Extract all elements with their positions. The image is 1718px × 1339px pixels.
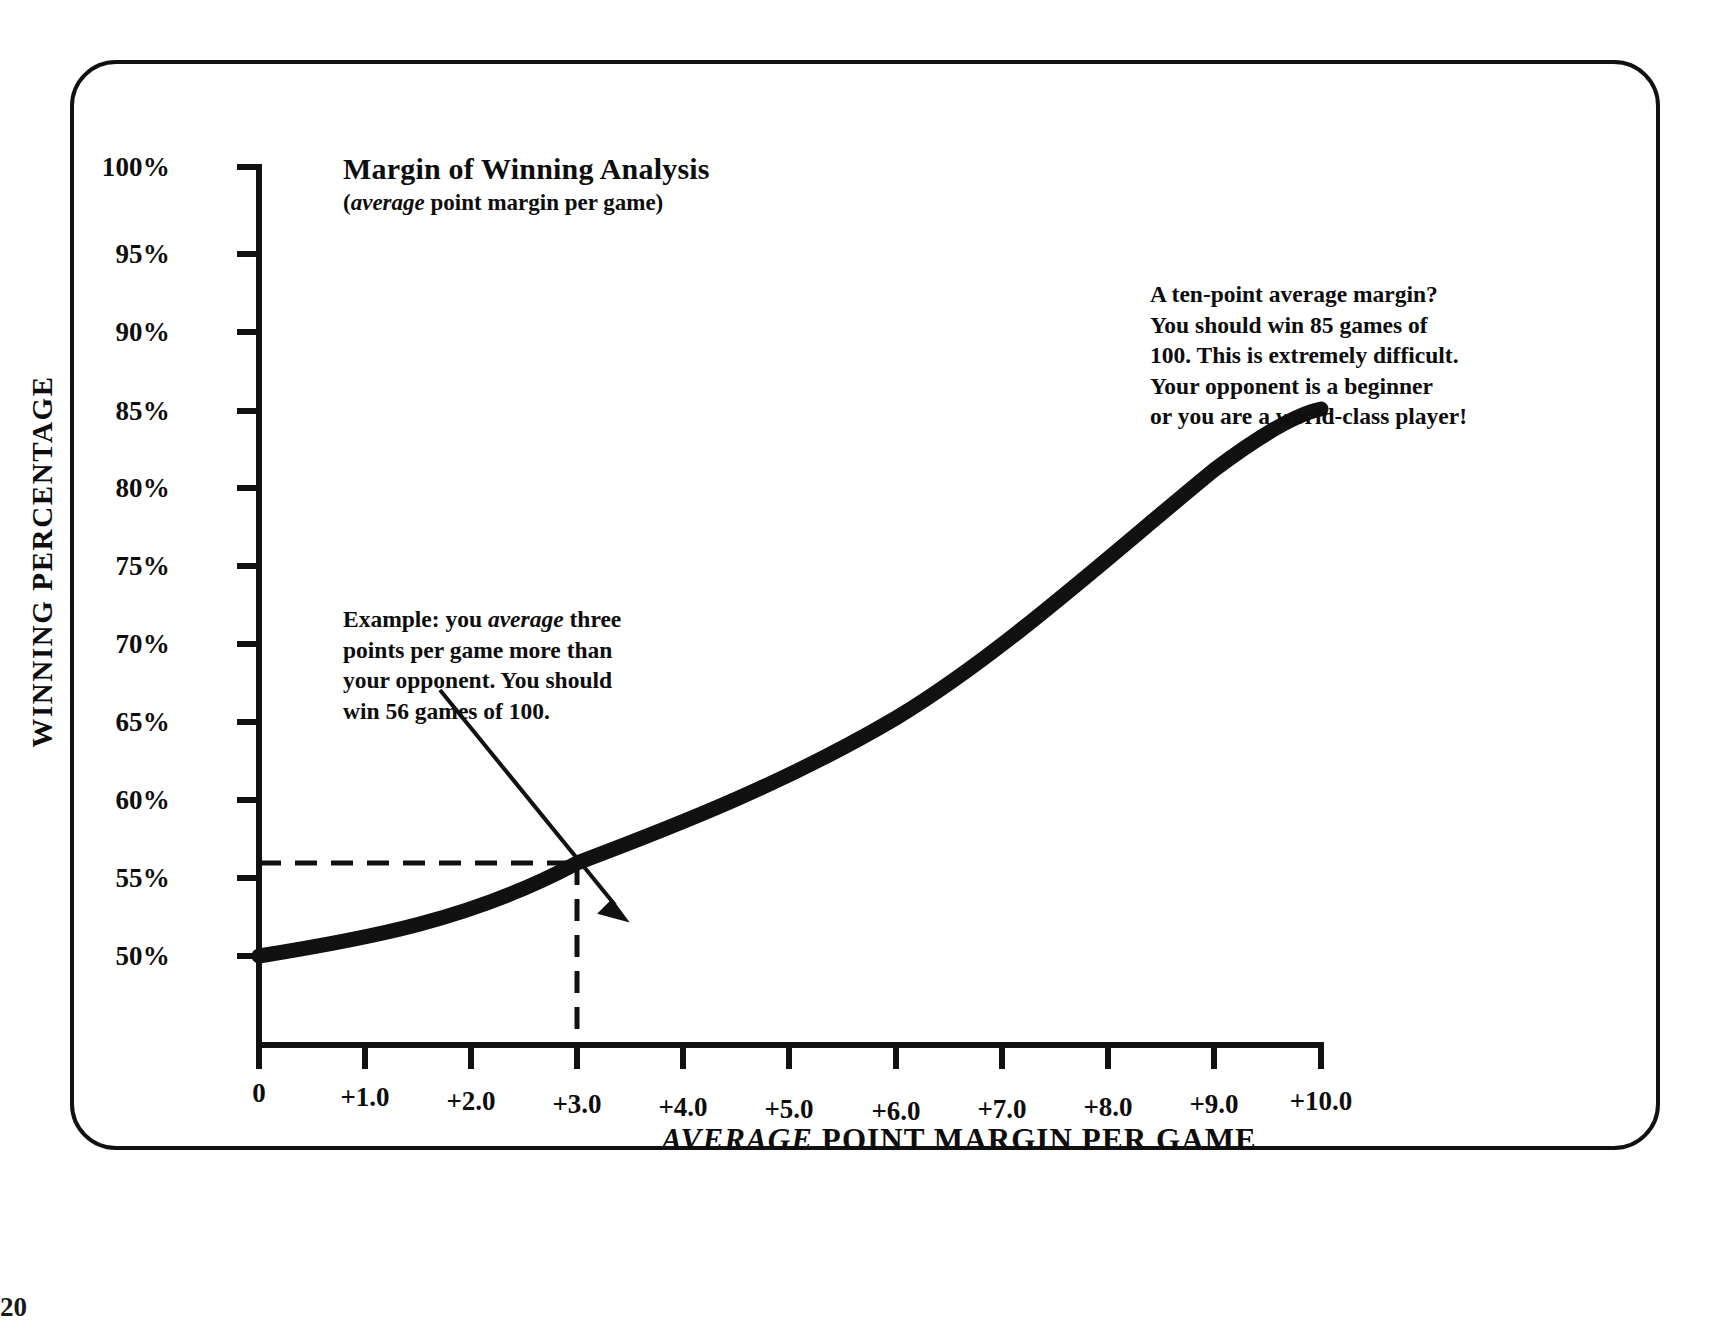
x-axis-title-italic: AVERAGE bbox=[661, 1122, 813, 1157]
example-callout-line-1: Example: you average three bbox=[343, 604, 611, 635]
example-callout: Example: you average threepoints per gam… bbox=[343, 604, 611, 726]
x-tick-label-3: +3.0 bbox=[517, 1089, 637, 1120]
x-tick-label-8: +8.0 bbox=[1048, 1092, 1168, 1123]
x-axis-title-rest: POINT MARGIN PER GAME bbox=[813, 1122, 1257, 1157]
example-callout-line-2: points per game more than bbox=[343, 635, 611, 666]
y-tick-label-55: 55% bbox=[60, 863, 170, 894]
chart-subtitle-rest: point margin per game) bbox=[425, 190, 664, 215]
ten-point-callout-line-5: or you are a world-class player! bbox=[1150, 401, 1434, 432]
chart-title: Margin of Winning Analysis bbox=[343, 152, 903, 186]
page-number: 20 bbox=[0, 1292, 27, 1323]
y-tick-label-65: 65% bbox=[60, 707, 170, 738]
example-callout-line-4: win 56 games of 100. bbox=[343, 696, 611, 727]
chart-subtitle: (average point margin per game) bbox=[343, 190, 903, 216]
ten-point-callout: A ten-point average margin?You should wi… bbox=[1150, 279, 1434, 432]
y-tick-label-100: 100% bbox=[60, 152, 170, 183]
chart-subtitle-italic: average bbox=[351, 190, 425, 215]
x-tick-label-2: +2.0 bbox=[411, 1086, 531, 1117]
y-tick-label-50: 50% bbox=[60, 941, 170, 972]
x-tick-label-5: +5.0 bbox=[729, 1094, 849, 1125]
y-axis-title: WINNING PERCENTAGE bbox=[26, 352, 59, 772]
example-callout-italic: average bbox=[488, 606, 564, 632]
chart-title-block: Margin of Winning Analysis (average poin… bbox=[343, 152, 903, 216]
x-tick-label-0: 0 bbox=[199, 1078, 319, 1109]
x-tick-label-9: +9.0 bbox=[1154, 1089, 1274, 1120]
example-callout-line-3: your opponent. You should bbox=[343, 665, 611, 696]
y-tick-label-75: 75% bbox=[60, 551, 170, 582]
x-tick-label-7: +7.0 bbox=[942, 1094, 1062, 1125]
ten-point-callout-line-4: Your opponent is a beginner bbox=[1150, 371, 1434, 402]
ten-point-callout-line-3: 100. This is extremely difficult. bbox=[1150, 340, 1434, 371]
y-tick-label-60: 60% bbox=[60, 785, 170, 816]
ten-point-callout-line-2: You should win 85 games of bbox=[1150, 310, 1434, 341]
ten-point-callout-line-1: A ten-point average margin? bbox=[1150, 279, 1434, 310]
x-tick-label-1: +1.0 bbox=[305, 1082, 425, 1113]
y-tick-label-90: 90% bbox=[60, 317, 170, 348]
x-axis-title: AVERAGE POINT MARGIN PER GAME bbox=[459, 1122, 1459, 1158]
y-tick-label-70: 70% bbox=[60, 629, 170, 660]
x-tick-label-10: +10.0 bbox=[1261, 1086, 1381, 1117]
x-tick-label-4: +4.0 bbox=[623, 1092, 743, 1123]
figure-border bbox=[70, 60, 1660, 1150]
y-tick-label-95: 95% bbox=[60, 239, 170, 270]
y-tick-label-85: 85% bbox=[60, 396, 170, 427]
y-tick-label-80: 80% bbox=[60, 473, 170, 504]
